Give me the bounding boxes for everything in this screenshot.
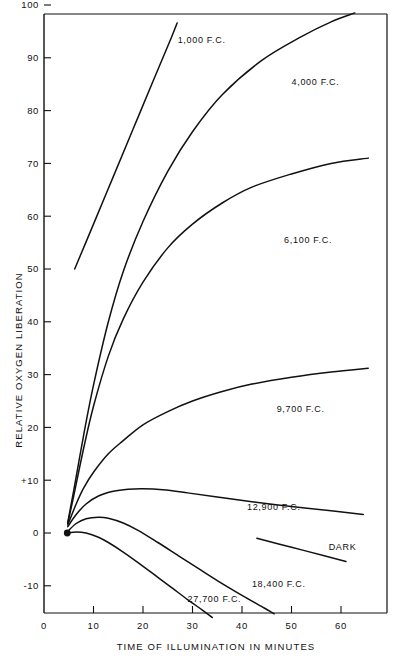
series-label: 4,000 F.C.	[292, 77, 340, 87]
y-tick-label: 0	[33, 527, 39, 538]
origin-marker-group	[64, 530, 71, 537]
y-tick-label: 50	[27, 263, 39, 274]
series-curve	[68, 13, 355, 523]
y-tick-label: +10	[21, 475, 39, 486]
series-label: 12,900 F.C.	[247, 502, 301, 512]
x-tick-label: 10	[88, 620, 100, 631]
series-curve	[68, 517, 274, 614]
series-label: DARK	[329, 542, 357, 552]
oxygen-liberation-line-chart: -100+102030405060708090100 0102030405060…	[0, 0, 405, 659]
series-curve	[75, 23, 177, 269]
series-curve	[68, 368, 368, 525]
x-axis-title: TIME OF ILLUMINATION IN MINUTES	[117, 641, 316, 652]
y-tick-label: -10	[23, 580, 39, 591]
data-curves	[68, 13, 368, 618]
series-label: 1,000 F.C.	[178, 35, 226, 45]
series-label: 18,400 F.C.	[252, 579, 306, 589]
y-axis-ticks	[44, 5, 51, 586]
x-tick-label: 50	[286, 620, 298, 631]
x-tick-label: 0	[41, 620, 47, 631]
x-tick-label: 30	[187, 620, 199, 631]
y-tick-label: 30	[27, 369, 39, 380]
series-label: 6,100 F.C.	[284, 235, 332, 245]
curve-labels: 1,000 F.C.4,000 F.C.6,100 F.C.9,700 F.C.…	[178, 35, 357, 605]
y-axis-title: RELATIVE OXYGEN LIBERATION	[13, 272, 24, 448]
y-tick-label: 80	[27, 105, 39, 116]
x-axis-tick-labels: 0102030405060	[41, 620, 347, 631]
x-axis-ticks	[94, 606, 342, 613]
x-tick-label: 20	[137, 620, 149, 631]
x-tick-label: 60	[335, 620, 347, 631]
y-tick-label: 60	[27, 211, 39, 222]
series-curve	[68, 158, 368, 523]
series-curve	[68, 532, 213, 618]
chart-figure: -100+102030405060708090100 0102030405060…	[0, 0, 405, 659]
series-curve	[68, 489, 364, 527]
series-label: 9,700 F.C.	[277, 404, 325, 414]
y-tick-label: 90	[27, 52, 39, 63]
y-tick-label: 40	[27, 316, 39, 327]
plot-frame	[44, 14, 387, 613]
x-tick-label: 40	[236, 620, 248, 631]
series-label: 27,700 F.C.	[188, 594, 242, 604]
origin-dot-marker	[64, 530, 71, 537]
y-tick-label: 20	[27, 422, 39, 433]
y-tick-label: 100	[21, 0, 39, 10]
y-tick-label: 70	[27, 158, 39, 169]
